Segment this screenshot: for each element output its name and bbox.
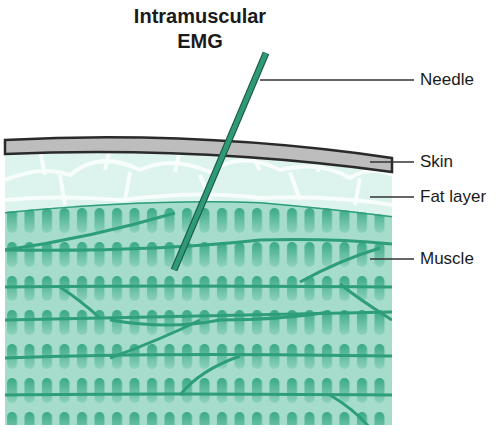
label-skin: Skin	[420, 152, 453, 172]
muscle-layer	[5, 195, 392, 428]
label-fat-layer: Fat layer	[420, 187, 486, 207]
label-needle: Needle	[420, 70, 474, 90]
emg-diagram	[0, 0, 503, 441]
label-muscle: Muscle	[420, 249, 474, 269]
